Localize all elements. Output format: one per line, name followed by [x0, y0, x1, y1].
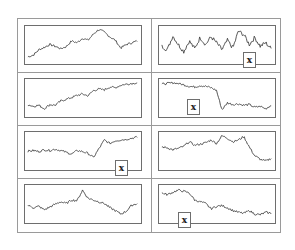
- line-plot-panel-7: [24, 184, 142, 224]
- series-line-6: [159, 132, 275, 170]
- x-marker-box-2: x: [243, 52, 256, 68]
- x-marker-box-5: x: [115, 160, 128, 176]
- x-marker-box-8: x: [178, 212, 191, 228]
- series-line-7: [25, 185, 141, 223]
- series-line-3: [25, 79, 141, 117]
- series-line-4: [159, 79, 275, 117]
- series-line-2: [159, 26, 275, 64]
- series-line-8: [159, 185, 275, 223]
- line-plot-panel-4: [158, 78, 276, 118]
- row-divider-3: [18, 178, 280, 179]
- row-divider-2: [18, 125, 280, 126]
- line-plot-panel-1: [24, 25, 142, 65]
- row-divider-1: [18, 72, 280, 73]
- x-marker-box-4: x: [187, 99, 200, 115]
- line-plot-panel-6: [158, 131, 276, 171]
- line-plot-panel-3: [24, 78, 142, 118]
- series-line-1: [25, 26, 141, 64]
- line-plot-panel-8: [158, 184, 276, 224]
- line-plot-panel-2: [158, 25, 276, 65]
